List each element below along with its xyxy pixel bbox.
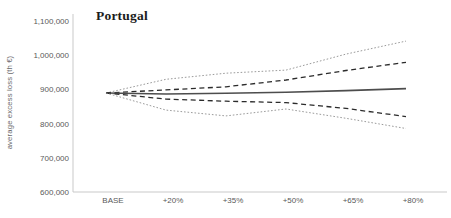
series-outer-upper-bound xyxy=(106,41,406,93)
x-tick-label: +20% xyxy=(163,196,184,205)
x-tick-label: +50% xyxy=(283,196,304,205)
x-tick-label: +80% xyxy=(403,196,424,205)
series-inner-lower-bound xyxy=(106,93,406,117)
y-tick-label: 1,100,000 xyxy=(33,17,69,26)
y-tick-label: 700,000 xyxy=(40,154,69,163)
chart-title: Portugal xyxy=(96,8,148,24)
chart-figure: 1,100,0001,000,000900,000800,000700,0006… xyxy=(0,0,451,218)
plot-area: 1,100,0001,000,000900,000800,000700,0006… xyxy=(0,0,451,218)
y-tick-label: 600,000 xyxy=(40,188,69,197)
y-tick-label: 800,000 xyxy=(40,120,69,129)
x-tick-label: +35% xyxy=(223,196,244,205)
axis-lines xyxy=(73,14,447,192)
x-tick-label: +65% xyxy=(343,196,364,205)
y-axis-title: average excess loss (th €) xyxy=(5,42,16,164)
x-tick-label: BASE xyxy=(102,196,123,205)
y-tick-label: 1,000,000 xyxy=(33,51,69,60)
series-inner-upper-bound xyxy=(106,62,406,93)
y-tick-label: 900,000 xyxy=(40,85,69,94)
